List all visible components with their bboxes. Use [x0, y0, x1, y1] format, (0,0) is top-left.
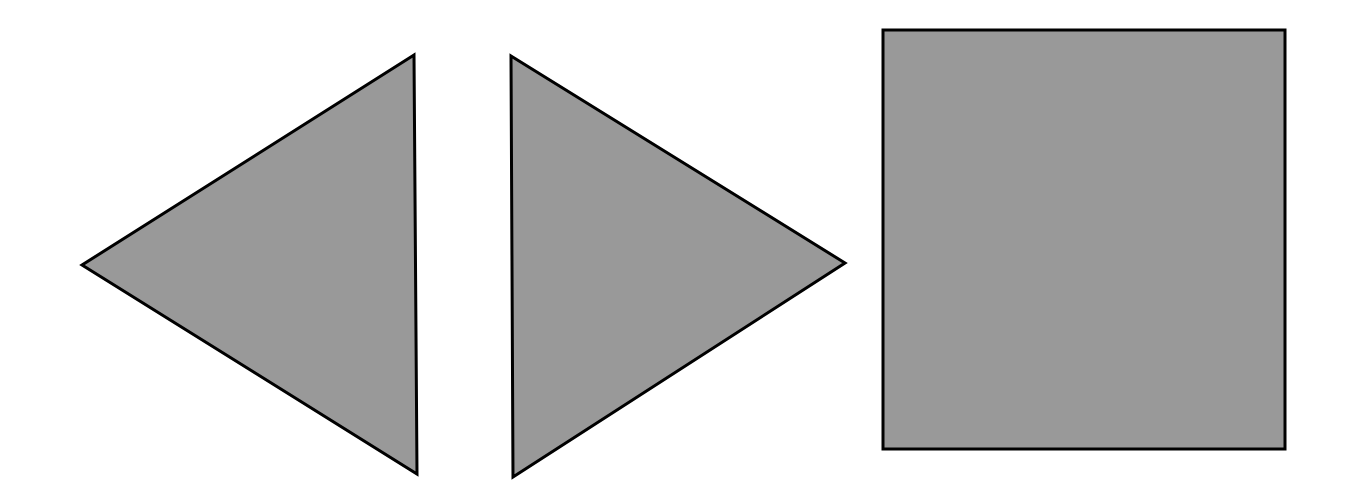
- shapes-canvas-root: [0, 0, 1356, 492]
- square: [883, 30, 1285, 449]
- shapes-svg-canvas: [0, 0, 1356, 492]
